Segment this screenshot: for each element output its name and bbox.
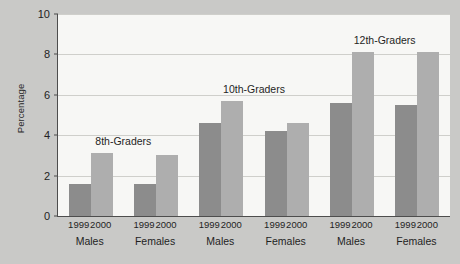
gender-group-males: [189, 14, 254, 216]
gender-group-females: [123, 14, 188, 216]
gender-group-males: [319, 14, 384, 216]
bar-2000: [417, 52, 439, 216]
x-axis-year-label: 2000: [155, 219, 177, 230]
bar-1999: [395, 105, 417, 216]
x-years-row: 19992000: [253, 219, 318, 230]
bars-layer: 8th-Graders10th-Graders12th-Graders: [58, 14, 450, 216]
gender-group-females: [254, 14, 319, 216]
x-years-row: 19992000: [122, 219, 187, 230]
x-gender-block: 19992000Males: [318, 219, 383, 264]
bar-2000: [221, 101, 243, 216]
x-grade-block: 19992000Males19992000Females: [188, 219, 319, 264]
x-axis-year-label: 2000: [351, 219, 373, 230]
x-axis-year-label: 2000: [286, 219, 308, 230]
bar-2000: [352, 52, 374, 216]
bar-1999: [134, 184, 156, 216]
x-axis-year-label: 1999: [133, 219, 155, 230]
y-axis-title: Percentage: [14, 0, 28, 216]
x-axis-year-label: 2000: [416, 219, 438, 230]
x-years-row: 19992000: [57, 219, 122, 230]
gender-group-females: [385, 14, 450, 216]
x-axis-gender-label: Males: [337, 235, 365, 247]
bar-2000: [287, 123, 309, 216]
x-gender-block: 19992000Males: [188, 219, 253, 264]
x-axis-gender-label: Females: [135, 235, 175, 247]
x-gender-block: 19992000Males: [57, 219, 122, 264]
x-years-row: 19992000: [318, 219, 383, 230]
grade-group: 12th-Graders: [319, 14, 450, 216]
bar-1999: [265, 131, 287, 216]
bar-1999: [330, 103, 352, 216]
x-gender-block: 19992000Females: [253, 219, 318, 264]
x-axis-year-label: 1999: [394, 219, 416, 230]
x-axis-gender-label: Females: [266, 235, 306, 247]
bar-2000: [156, 155, 178, 216]
y-axis-tick-labels: 0246810: [28, 14, 54, 216]
y-axis-tick-label: 6: [44, 89, 50, 101]
x-gender-block: 19992000Females: [122, 219, 187, 264]
x-axis-labels: 19992000Males19992000Females19992000Male…: [57, 219, 449, 264]
y-axis-tick-label: 0: [44, 210, 50, 222]
bar-2000: [91, 153, 113, 216]
y-axis-title-text: Percentage: [16, 83, 27, 133]
x-years-row: 19992000: [384, 219, 449, 230]
x-grade-block: 19992000Males19992000Females: [57, 219, 188, 264]
x-years-row: 19992000: [188, 219, 253, 230]
bar-1999: [199, 123, 221, 216]
grade-group: 10th-Graders: [189, 14, 320, 216]
x-axis-year-label: 1999: [329, 219, 351, 230]
x-axis-gender-label: Males: [76, 235, 104, 247]
y-axis-tick-label: 10: [38, 8, 50, 20]
x-axis-year-label: 1999: [68, 219, 90, 230]
y-axis-tick-label: 8: [44, 48, 50, 60]
y-axis-tick-label: 2: [44, 170, 50, 182]
plot-area: 8th-Graders10th-Graders12th-Graders: [57, 14, 450, 217]
x-axis-gender-label: Females: [396, 235, 436, 247]
x-axis-year-label: 2000: [220, 219, 242, 230]
x-axis-gender-label: Males: [206, 235, 234, 247]
x-axis-year-label: 1999: [264, 219, 286, 230]
bar-chart-figure: Percentage 0246810 8th-Graders10th-Grade…: [0, 0, 460, 264]
x-grade-block: 19992000Males19992000Females: [318, 219, 449, 264]
bar-1999: [69, 184, 91, 216]
gender-group-males: [58, 14, 123, 216]
grade-group: 8th-Graders: [58, 14, 189, 216]
x-axis-year-label: 2000: [90, 219, 112, 230]
y-axis-tick-label: 4: [44, 129, 50, 141]
x-axis-year-label: 1999: [198, 219, 220, 230]
x-gender-block: 19992000Females: [384, 219, 449, 264]
